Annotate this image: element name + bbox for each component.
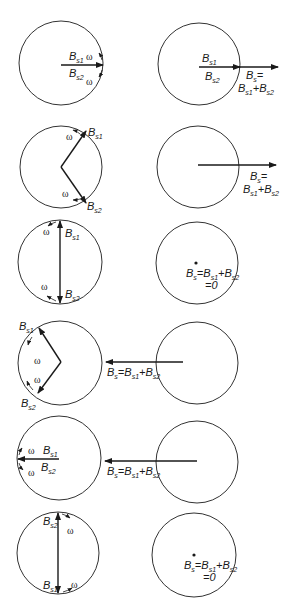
label-bs2: Bs2 xyxy=(205,70,220,84)
omega-label-top: ω xyxy=(43,226,50,237)
zero-resultant-dot xyxy=(192,553,195,556)
stator-circle xyxy=(158,23,240,105)
row-5-left-rotating-fields: Bs1 Bs2 ω ω xyxy=(17,416,101,500)
row-5-right-resultant: Bs=Bs1+Bs2 xyxy=(105,421,238,503)
row-2-left-rotating-fields: Bs1 Bs2 ω ω xyxy=(20,126,103,214)
omega-label-top: ω xyxy=(34,355,41,366)
rotation-arrow-cw-icon xyxy=(19,463,23,470)
rotation-arrow-ccw-icon xyxy=(63,588,72,592)
label-bs1-plus-bs2: Bs1+Bs2 xyxy=(238,82,274,96)
stator-circle xyxy=(156,322,238,404)
omega-label-top: ω xyxy=(67,525,74,536)
label-bs1-plus-bs2: Bs1+Bs2 xyxy=(243,183,279,197)
label-bs1: Bs1 xyxy=(19,320,34,334)
label-bs1: Bs1 xyxy=(88,126,103,140)
omega-label-bottom: ω xyxy=(28,467,35,478)
omega-label-top: ω xyxy=(66,131,73,142)
omega-label-bottom: ω xyxy=(34,374,41,385)
row-5: Bs1 Bs2 ω ω Bs=Bs1+Bs2 xyxy=(17,416,238,503)
row-4: Bs1 Bs2 ω ω Bs=Bs1+Bs2 xyxy=(18,320,238,411)
label-bs-sum: Bs=Bs1+Bs2 xyxy=(107,366,160,380)
label-bs-eq: Bs= xyxy=(250,170,268,184)
label-bs2: Bs2 xyxy=(21,397,36,411)
rotation-arrow-ccw-icon xyxy=(19,448,22,455)
omega-label-bottom: ω xyxy=(86,76,93,87)
label-zero: =0 xyxy=(203,571,216,583)
row-6-right-resultant: Bs=Bs1+Bs2 =0 xyxy=(152,513,237,597)
row-2-right-resultant: Bs= Bs1+Bs2 xyxy=(157,126,279,208)
rotation-arrow-ccw-icon xyxy=(28,337,32,345)
label-bs1: Bs1 xyxy=(43,579,58,593)
zero-resultant-dot xyxy=(194,261,197,264)
label-bs2: Bs2 xyxy=(87,200,102,214)
omega-label-bottom: ω xyxy=(41,281,48,292)
label-bs1: Bs1 xyxy=(65,227,80,241)
row-6: Bs2 Bs1 ω ω Bs=Bs1+Bs2 =0 xyxy=(17,512,237,597)
label-bs2: Bs2 xyxy=(43,515,58,529)
stator-circle xyxy=(17,416,101,500)
row-4-left-rotating-fields: Bs1 Bs2 ω ω xyxy=(18,320,102,411)
omega-label-top: ω xyxy=(86,51,93,62)
rotation-arrow-ccw-icon xyxy=(48,222,56,226)
label-bs2: Bs2 xyxy=(41,461,56,475)
label-bs-eq: Bs= xyxy=(246,69,264,83)
rotation-arrow-cw-icon xyxy=(62,514,70,518)
label-bs2: Bs2 xyxy=(69,67,84,81)
row-1-left-rotating-fields: Bs1 Bs2 ω ω xyxy=(19,21,103,105)
label-bs1: Bs1 xyxy=(43,444,58,458)
rotation-arrow-cw-icon xyxy=(73,199,80,200)
vector-bs2 xyxy=(38,362,61,393)
row-1: Bs1 Bs2 ω ω Bs1 Bs2 Bs= Bs1+Bs2 xyxy=(19,21,278,105)
stator-circle xyxy=(19,21,103,105)
omega-label-bottom: ω xyxy=(62,188,69,199)
omega-label-top: ω xyxy=(28,445,35,456)
label-bs1: Bs1 xyxy=(69,50,84,64)
stator-circle xyxy=(157,126,239,208)
stator-circle xyxy=(156,421,238,503)
row-3-right-resultant: Bs=Bs1+Bs2 =0 xyxy=(156,222,239,304)
label-bs-sum: Bs=Bs1+Bs2 xyxy=(107,465,160,479)
rotation-arrow-cw-icon xyxy=(47,296,56,301)
label-bs2: Bs2 xyxy=(65,288,80,302)
row-4-right-resultant: Bs=Bs1+Bs2 xyxy=(106,322,238,404)
row-2: Bs1 Bs2 ω ω Bs= Bs1+Bs2 xyxy=(20,126,279,214)
label-zero: =0 xyxy=(205,279,218,291)
row-3-left-rotating-fields: Bs1 Bs2 ω ω xyxy=(18,220,102,304)
vector-bs1 xyxy=(39,328,61,362)
rotation-arrow-cw-icon xyxy=(27,381,33,390)
row-3: Bs1 Bs2 ω ω Bs=Bs1+Bs2 =0 xyxy=(18,220,239,304)
phasor-diagram: Bs1 Bs2 ω ω Bs1 Bs2 Bs= Bs1+Bs2 Bs1 Bs2 … xyxy=(0,0,294,615)
vector-bs1 xyxy=(61,131,86,167)
label-bs1: Bs1 xyxy=(202,52,217,66)
row-1-right-resultant: Bs1 Bs2 Bs= Bs1+Bs2 xyxy=(158,23,278,105)
row-6-left-rotating-fields: Bs2 Bs1 ω ω xyxy=(17,512,99,594)
